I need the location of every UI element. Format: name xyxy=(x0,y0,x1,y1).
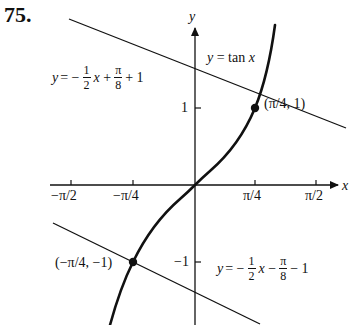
y-tick-label: −1 xyxy=(174,255,189,269)
frac-den: 8 xyxy=(115,78,121,91)
fraction: 12 xyxy=(83,64,91,91)
fraction: π8 xyxy=(114,64,122,91)
y-tick-label: 1 xyxy=(181,101,188,115)
x-axis-label: x xyxy=(342,179,348,193)
frac-den: 8 xyxy=(280,269,286,282)
x-tick-label: −π/2 xyxy=(51,189,77,203)
frac-den: 2 xyxy=(249,269,255,282)
eq-text: + 1 xyxy=(125,70,143,86)
point-upper xyxy=(251,104,259,112)
frac-den: 2 xyxy=(84,78,90,91)
x-ticks xyxy=(71,180,316,185)
equation-lower-line: y = − 12 x − π8 − 1 xyxy=(217,255,309,282)
x-tick-label: π/4 xyxy=(243,189,261,203)
eq-text: = − xyxy=(60,70,79,86)
fraction: 12 xyxy=(248,255,256,282)
frac-num: π xyxy=(114,64,122,78)
equation-upper-line: y = − 12 x + π8 + 1 xyxy=(52,64,144,91)
frac-num: 1 xyxy=(83,64,91,78)
eq-text: − 1 xyxy=(290,261,308,277)
tangent-lines-figure: 75. y x xyxy=(0,0,354,325)
point-lower xyxy=(129,258,137,266)
eq-text: x − xyxy=(259,261,277,277)
tan-curve-label: y = tan x xyxy=(207,51,255,65)
point-upper-label: (π/4, 1) xyxy=(264,97,305,111)
eq-text: = − xyxy=(225,261,244,277)
eq-text: x + xyxy=(94,70,112,86)
frac-num: 1 xyxy=(248,255,256,269)
fraction: π8 xyxy=(279,255,287,282)
x-tick-label: π/2 xyxy=(305,189,323,203)
point-lower-label: (−π/4, −1) xyxy=(55,256,112,270)
x-tick-label: −π/4 xyxy=(113,189,139,203)
frac-num: π xyxy=(279,255,287,269)
y-axis-label: y xyxy=(189,10,195,24)
